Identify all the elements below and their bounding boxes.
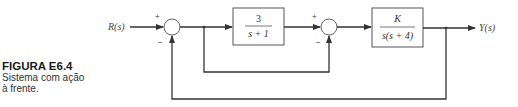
input-label: R(s)	[107, 21, 125, 33]
block1-numerator: 3	[256, 13, 261, 24]
sum1-minus-sign: −	[158, 38, 163, 47]
block1-denominator: s + 1	[248, 28, 269, 39]
output-label: Y(s)	[479, 22, 496, 34]
sum2-plus-sign: +	[312, 12, 317, 21]
sum2-minus-sign: −	[316, 38, 321, 47]
summing-junction-2	[321, 19, 337, 35]
block-diagram: R(s) + − 3 s + 1 + − K s(s + 4) Y(s)	[0, 0, 518, 107]
sum1-plus-sign: +	[155, 12, 160, 21]
block2-denominator: s(s + 4)	[382, 30, 414, 42]
summing-junction-1	[164, 19, 180, 35]
block2-numerator: K	[393, 13, 402, 24]
